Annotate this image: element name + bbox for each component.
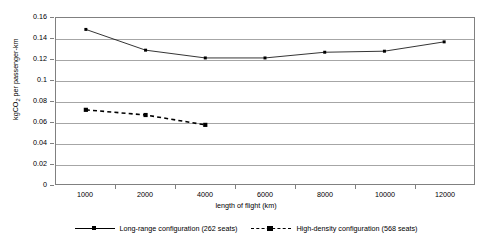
data-point-marker <box>443 40 446 43</box>
legend-entry[interactable]: High-density configuration (568 seats) <box>251 224 417 233</box>
data-point-marker <box>84 108 88 112</box>
y-axis-tick-mark <box>50 164 54 165</box>
legend-key-icon <box>75 224 115 233</box>
data-point-marker <box>143 113 147 117</box>
data-point-marker <box>204 56 207 59</box>
x-axis-tick-label: 10000 <box>375 191 395 199</box>
legend-key-icon <box>251 224 291 233</box>
y-axis-tick-mark <box>50 80 54 81</box>
x-axis-tick-mark <box>295 185 296 189</box>
x-axis-tick-label: 12000 <box>435 191 455 199</box>
data-point-marker <box>144 49 147 52</box>
y-axis-tick-mark <box>50 143 54 144</box>
y-axis-tick-label: 0.02 <box>33 160 47 167</box>
x-axis-tick-mark <box>235 185 236 189</box>
y-axis-tick-label: 0.04 <box>33 139 47 146</box>
y-axis-tick-mark <box>50 38 54 39</box>
y-axis-tick-mark <box>50 185 54 186</box>
x-axis-tick-mark <box>415 185 416 189</box>
chart-legend: Long-range configuration (262 seats)High… <box>0 224 492 233</box>
y-axis-tick-label: 0.12 <box>33 55 47 62</box>
x-axis-tick-label: 4000 <box>197 191 213 199</box>
y-axis-tick-mark <box>50 122 54 123</box>
data-point-marker <box>84 28 87 31</box>
y-axis-tick-label: 0.1 <box>37 76 47 83</box>
series-layer <box>56 18 474 184</box>
data-point-marker <box>264 56 267 59</box>
series-line <box>86 29 444 58</box>
legend-label: Long-range configuration (262 seats) <box>120 224 238 233</box>
y-axis-tick-label: 0.16 <box>33 13 47 20</box>
y-axis-tick-label: 0.14 <box>33 34 47 41</box>
x-axis-tick-label: 8000 <box>317 191 333 199</box>
x-axis-tick-mark <box>115 185 116 189</box>
data-point-marker <box>323 51 326 54</box>
legend-entry[interactable]: Long-range configuration (262 seats) <box>75 224 238 233</box>
legend-label: High-density configuration (568 seats) <box>296 224 417 233</box>
x-axis-title: length of flight (km) <box>0 201 492 210</box>
x-axis-tick-mark <box>355 185 356 189</box>
data-point-marker <box>383 50 386 53</box>
chart-figure: kgCO2 per passenger-km 0.160.140.120.10.… <box>0 0 492 242</box>
y-axis-tick-label: 0.06 <box>33 118 47 125</box>
y-axis-tick-mark <box>50 101 54 102</box>
x-axis-tick-label: 2000 <box>137 191 153 199</box>
y-axis-tick-mark <box>50 59 54 60</box>
plot-area <box>55 17 475 185</box>
y-axis-tick-label: 0.08 <box>33 97 47 104</box>
x-axis-tick-mark <box>175 185 176 189</box>
y-axis-tick-mark <box>50 17 54 18</box>
x-axis-tick-label: 6000 <box>257 191 273 199</box>
series-line <box>86 110 205 125</box>
data-point-marker <box>203 123 207 127</box>
y-axis-tick-label: 0 <box>43 181 47 188</box>
x-axis-tick-label: 1000 <box>77 191 93 199</box>
